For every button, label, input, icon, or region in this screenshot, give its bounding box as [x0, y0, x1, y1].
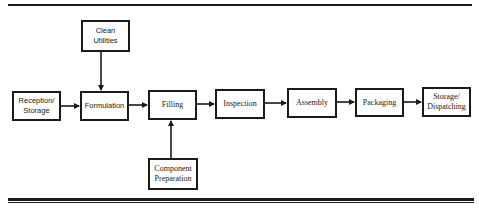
bottom-rule-thick: [8, 198, 474, 201]
flow-arrows: [0, 0, 479, 208]
bottom-rule-thin: [8, 202, 474, 203]
